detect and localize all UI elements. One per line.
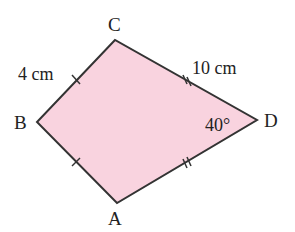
side-label-bc: 4 cm	[18, 64, 54, 84]
vertex-label-c: C	[108, 14, 121, 35]
vertex-label-b: B	[14, 112, 27, 133]
diagram-canvas: C B A D 4 cm 10 cm 40°	[0, 0, 295, 232]
angle-label-d: 40°	[205, 115, 230, 135]
vertex-label-d: D	[264, 110, 278, 131]
side-label-cd: 10 cm	[192, 58, 237, 78]
kite-diagram: C B A D 4 cm 10 cm 40°	[0, 0, 295, 232]
vertex-label-a: A	[108, 208, 122, 229]
